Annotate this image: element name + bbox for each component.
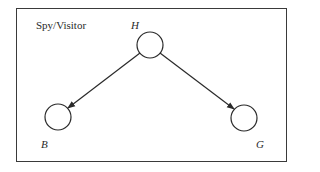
node-label-b: B <box>41 138 48 150</box>
node-b <box>45 104 71 130</box>
edge-h-to-g <box>160 53 234 109</box>
edge-h-to-b <box>68 53 140 108</box>
node-g <box>231 105 257 131</box>
node-label-h: H <box>131 19 139 31</box>
node-h <box>137 32 163 58</box>
node-label-g: G <box>256 138 264 150</box>
